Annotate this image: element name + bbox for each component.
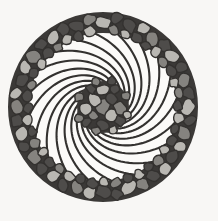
border-pebble (135, 178, 149, 190)
border-pebble (27, 80, 37, 90)
border-pebble (18, 142, 29, 152)
core-pebble (123, 111, 131, 119)
border-pebble (170, 78, 179, 87)
core-pebble (109, 126, 117, 134)
core-pebble (107, 76, 115, 85)
core-pebble (80, 103, 92, 115)
border-pebble (121, 30, 131, 39)
border-pebble (158, 57, 167, 68)
border-pebble (144, 163, 153, 172)
border-pebble (153, 155, 164, 166)
core-pebble (121, 92, 130, 100)
border-pebble (99, 177, 108, 186)
border-pebble (42, 48, 53, 60)
core-pebble (110, 85, 119, 94)
core-pebble (92, 78, 100, 86)
border-pebble (29, 138, 40, 148)
border-pebble (159, 145, 169, 154)
border-pebble (53, 43, 63, 52)
border-pebble (29, 68, 38, 78)
border-pebble (177, 73, 190, 88)
core-pebble (75, 93, 84, 102)
artwork-canvas: Pebble Mosaic Spiral Mandala (0, 0, 218, 221)
border-pebble (37, 59, 46, 70)
border-pebble (123, 174, 133, 183)
border-pebble (74, 31, 84, 42)
border-pebble (62, 34, 72, 44)
border-pebble (76, 174, 86, 184)
core-pebble (74, 114, 83, 122)
border-pebble (174, 87, 183, 98)
pebble-mandala-illustration (0, 0, 218, 221)
